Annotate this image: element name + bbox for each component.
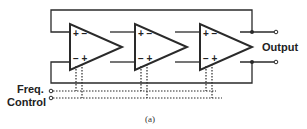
freq-terminal <box>49 89 53 93</box>
amp1-bottom-signs: − + <box>73 53 88 64</box>
output-terminal-bottom <box>274 60 278 64</box>
amp3-bottom-signs: − + <box>203 53 218 64</box>
junction-dot-top <box>250 30 254 34</box>
ring-oscillator-diagram: + − − + + − − + + − − + Output Freq. Con… <box>0 0 307 129</box>
amp3-top-signs: + − <box>203 28 218 39</box>
amp2-top-signs: + − <box>138 28 153 39</box>
output-label: Output <box>262 41 298 53</box>
junction-dot-bottom <box>250 60 254 64</box>
amp1-top-signs: + − <box>73 28 88 39</box>
freq-label: Freq. <box>17 83 44 95</box>
amp2-bottom-signs: − + <box>138 53 153 64</box>
control-terminal <box>49 96 53 100</box>
control-label: Control <box>7 96 46 108</box>
output-terminal-top <box>274 30 278 34</box>
figure-caption: (a) <box>145 114 155 124</box>
